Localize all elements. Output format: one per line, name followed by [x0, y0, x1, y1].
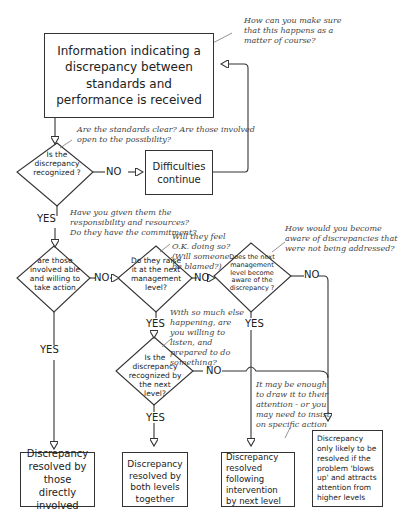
edge-yes-5: YES: [146, 412, 165, 423]
edge-no-3: NO: [194, 272, 209, 283]
note-standards: Are the standards clear? Are those invol…: [77, 125, 257, 145]
edge-no-5: NO: [206, 365, 221, 376]
decision-recognized: Is the discrepancy recognized ?: [30, 150, 84, 177]
outcome-resolved-intervention: Discrepancy resolved following intervent…: [221, 452, 295, 507]
note-top-right: How can you make sure that this happens …: [244, 16, 344, 46]
outcome-resolved-directly: Discrepancy resolved by those directly i…: [20, 452, 95, 507]
process-difficulties: Difficulties continue: [145, 150, 213, 195]
decision-next-level-aware: Does the next management level become aw…: [226, 254, 278, 293]
decision-able-willing: are those involved able and willing to t…: [29, 256, 81, 292]
edge-no-1: NO: [106, 166, 121, 177]
edge-no-2: NO: [94, 272, 109, 283]
note-insist: It may be enough to draw it to their att…: [256, 380, 336, 430]
outcome-resolved-both-levels: Discrepancy resolved by both levels toge…: [122, 452, 188, 507]
edge-yes-2: YES: [40, 344, 59, 355]
outcome-blows-up: Discrepancy only likely to be resolved i…: [312, 430, 383, 507]
edge-no-4: NO: [304, 269, 319, 280]
start-box: Information indicating a discrepancy bet…: [44, 33, 214, 118]
edge-yes-3: YES: [146, 318, 165, 329]
decision-raise-next-level: Do they raise it at the next management …: [130, 256, 182, 292]
decision-recognized-next-level: Is the discrepancy recognized by the nex…: [128, 353, 182, 398]
note-aware: How would you become aware of discrepanc…: [285, 224, 403, 254]
edge-yes-1: YES: [37, 213, 56, 224]
